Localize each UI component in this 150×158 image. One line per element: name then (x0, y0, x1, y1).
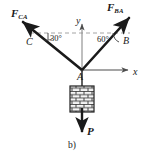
label-force-fca-subscript: CA (18, 13, 27, 20)
label-angle-30: 30° (50, 34, 62, 43)
figure-free-body-diagram: FCA FBA C B A y x P 30° 60° b) (0, 0, 150, 158)
force-vector-fba (82, 18, 129, 70)
label-point-b: B (123, 36, 129, 46)
label-force-fba-subscript: BA (114, 7, 123, 14)
label-axis-y: y (76, 16, 80, 26)
label-point-a: A (77, 72, 83, 82)
label-force-fca: FCA (11, 8, 27, 19)
figure-caption: b) (68, 141, 76, 151)
label-axis-x: x (133, 67, 137, 77)
diagram-canvas (0, 0, 150, 158)
label-angle-60: 60° (97, 35, 109, 44)
label-weight-p: P (87, 126, 94, 137)
label-point-c: C (26, 37, 33, 47)
label-force-fba: FBA (107, 2, 123, 13)
